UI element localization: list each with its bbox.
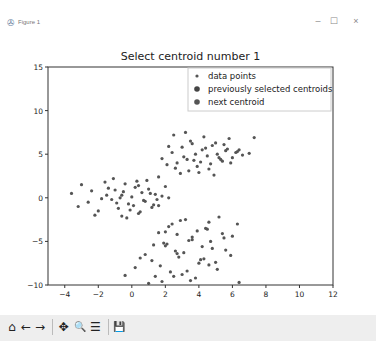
data-points [70, 131, 256, 285]
home-icon[interactable]: ⌂ [6, 319, 18, 335]
svg-text:5: 5 [38, 150, 43, 159]
configure-subplots-icon[interactable]: ☰ [89, 319, 102, 335]
forward-icon[interactable]: → [34, 319, 46, 335]
svg-text:8: 8 [264, 290, 269, 299]
svg-text:12: 12 [328, 290, 338, 299]
svg-text:15: 15 [33, 63, 43, 72]
svg-text:0: 0 [38, 194, 43, 203]
toolbar-separator [108, 319, 109, 335]
legend: data points previously selected centroid… [188, 68, 333, 111]
svg-text:−5: −5 [32, 237, 43, 246]
svg-text:6: 6 [230, 290, 235, 299]
zoom-icon[interactable]: 🔍 [73, 319, 86, 335]
data-points-marker-icon [195, 74, 198, 77]
svg-text:−2: −2 [93, 290, 104, 299]
previous-centroids-marker-icon [194, 86, 200, 92]
svg-text:0: 0 [129, 290, 134, 299]
navigation-toolbar: ⌂ ← → ✥ 🔍 ☰ 💾 [0, 315, 376, 341]
legend-next-centroid: next centroid [208, 97, 264, 107]
svg-text:−4: −4 [59, 290, 70, 299]
svg-text:10: 10 [33, 107, 43, 116]
save-icon[interactable]: 💾 [112, 319, 126, 335]
svg-text:4: 4 [196, 290, 201, 299]
svg-text:−10: −10 [27, 281, 43, 290]
scatter-plot[interactable]: −4−2024681012 −10−5051015 data points pr… [0, 0, 376, 315]
y-axis: −10−5051015 [27, 63, 48, 290]
svg-text:10: 10 [295, 290, 305, 299]
pan-icon[interactable]: ✥ [57, 319, 70, 335]
svg-text:2: 2 [163, 290, 168, 299]
x-axis: −4−2024681012 [59, 285, 338, 299]
legend-previous-centroids: previously selected centroids [208, 84, 333, 94]
toolbar-separator [52, 319, 53, 335]
back-icon[interactable]: ← [20, 319, 32, 335]
next-centroid-marker-icon [194, 99, 200, 105]
legend-data-points: data points [208, 71, 257, 81]
